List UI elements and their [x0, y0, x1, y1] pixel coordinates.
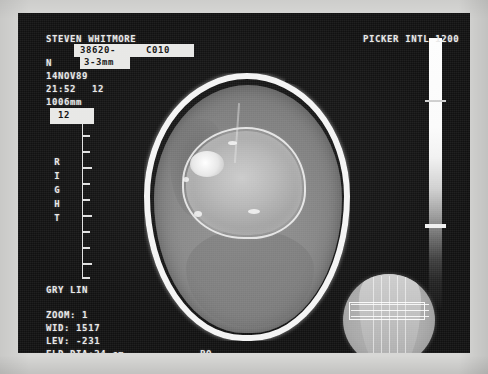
zoom-value-label: ZOOM: 1 — [46, 310, 88, 320]
table-position-label: 1006mm — [46, 97, 82, 107]
axial-head-ct-image — [128, 59, 368, 349]
field-of-view-label: FLD DIA:24 cm — [46, 349, 124, 353]
patient-name-label: STEVEN WHITMORE — [46, 34, 136, 44]
localizer-slice-box — [349, 302, 425, 320]
grayscale-tick — [425, 100, 446, 102]
scan-date-label: 14NOV89 — [46, 71, 88, 81]
window-level-label: LEV: -231 — [46, 336, 100, 346]
study-id-value: 38620- — [80, 45, 116, 55]
vertical-scale-ruler — [82, 119, 92, 279]
density-speck — [248, 209, 260, 214]
image-number-label: 12 — [92, 84, 104, 94]
lesion-rim — [182, 127, 306, 239]
density-speck — [183, 177, 189, 182]
ruler-tick — [83, 263, 92, 265]
density-speck — [194, 211, 202, 217]
scout-localizer-inset — [343, 274, 435, 353]
right-marker-char: T — [54, 211, 59, 225]
right-marker-char: R — [54, 155, 59, 169]
ruler-tick — [83, 231, 90, 233]
film-border: STEVEN WHITMORE 38620- C010 N 3-3mm 14NO… — [0, 0, 488, 374]
slice-thickness-field: 3-3mm — [80, 56, 130, 69]
grayscale-level-marker — [425, 224, 446, 228]
calcification-focus — [190, 151, 224, 177]
scanner-vendor-label: PICKER INTL 1200 — [363, 34, 459, 44]
ruler-tick — [83, 183, 90, 185]
density-speck — [228, 141, 237, 145]
ruler-tick — [83, 135, 90, 137]
ruler-tick — [83, 277, 90, 279]
ruler-tick — [83, 151, 90, 153]
right-marker-char: G — [54, 183, 59, 197]
skull-ring-gap-left — [132, 55, 186, 102]
scan-time-label: 21:52 — [46, 84, 76, 94]
ct-console-display: STEVEN WHITMORE 38620- C010 N 3-3mm 14NO… — [18, 13, 470, 353]
right-side-marker: R I G H T — [51, 155, 63, 225]
slice-thickness-value: 3-3mm — [84, 57, 114, 67]
ruler-tick — [83, 167, 92, 169]
current-slice-field: 12 — [50, 108, 94, 124]
right-marker-char: H — [54, 197, 59, 211]
ruler-tick — [83, 247, 90, 249]
current-slice-value: 12 — [58, 110, 70, 120]
window-width-label: WID: 1517 — [46, 323, 100, 333]
right-marker-char: I — [54, 169, 59, 183]
grayscale-reference-bar — [429, 38, 442, 308]
series-id-value: C010 — [146, 45, 170, 55]
ruler-tick — [83, 215, 92, 217]
patient-position-code: PO — [200, 349, 212, 353]
ruler-tick — [83, 199, 90, 201]
lut-label: GRY LIN — [46, 285, 88, 295]
orientation-letter-label: N — [46, 58, 52, 68]
